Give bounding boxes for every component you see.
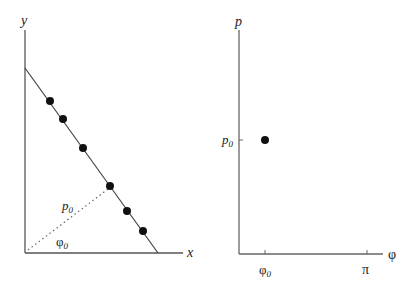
fitted-line — [25, 68, 158, 253]
p0-tick-label: p0 — [221, 132, 234, 149]
pi-tick-label: π — [362, 262, 369, 277]
data-point — [139, 227, 147, 235]
phi-axis-label: φ — [388, 247, 396, 262]
image-space-panel: y x p0 φ0 — [19, 13, 194, 260]
p0-label: p0 — [61, 198, 74, 215]
phi0-label: φ0 — [56, 234, 69, 251]
parameter-space-panel: p φ p0 φ0 π — [221, 14, 396, 279]
data-point — [59, 115, 67, 123]
data-point — [106, 182, 114, 190]
parameter-point — [261, 136, 269, 144]
data-points — [46, 97, 147, 235]
x-axis-label: x — [186, 245, 194, 260]
data-point — [79, 144, 87, 152]
hough-transform-diagram: y x p0 φ0 p φ p0 φ0 π — [0, 0, 414, 286]
data-point — [46, 97, 54, 105]
y-axis-label: y — [19, 13, 28, 28]
p-axis-label: p — [234, 14, 242, 29]
data-point — [123, 207, 131, 215]
phi0-tick-label: φ0 — [259, 262, 272, 279]
